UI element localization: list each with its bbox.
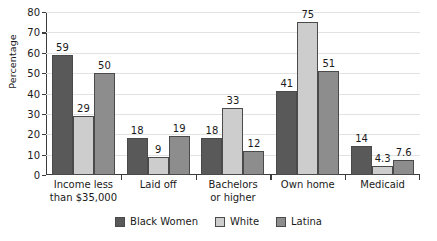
bar[interactable] [393,160,414,175]
bar-value-label: 50 [98,61,111,71]
bar-value-label: 14 [355,134,368,144]
bar[interactable] [127,138,148,175]
bar-groups: 59295018919183312417551144.37.6 [46,12,420,175]
bar-value-label: 12 [248,139,261,149]
bar-slot: 9 [148,12,169,175]
bar-slot: 19 [169,12,190,175]
bar-value-label: 29 [77,104,90,114]
y-axis-tick-mark [42,175,46,176]
bar-group: 417551 [270,12,345,175]
bar-value-label: 18 [131,126,144,136]
bar-slot: 4.3 [372,12,393,175]
legend-swatch-icon [115,217,125,227]
bar[interactable] [94,73,115,175]
x-axis-category-label: Laid off [121,179,196,204]
bar-value-label: 41 [280,79,293,89]
legend-swatch-icon [215,217,225,227]
y-axis-title: Percentage [7,22,18,102]
y-axis-tick-label: 30 [27,108,40,119]
bar-group: 183312 [196,12,271,175]
bar[interactable] [297,22,318,175]
x-axis-category-label-line: Own home [270,179,345,192]
bar[interactable] [201,138,222,175]
bar[interactable] [372,166,393,175]
bar-group-bars: 417551 [270,12,345,175]
bar[interactable] [73,116,94,175]
bar-slot: 33 [222,12,243,175]
x-axis-category-label-line: Income less [46,179,121,192]
bar[interactable] [276,91,297,175]
bar[interactable] [148,157,169,175]
x-axis-category-label-line: than $35,000 [46,192,121,205]
legend-label: White [230,216,259,227]
x-axis-category-label: Medicaid [345,179,420,204]
y-axis-tick-label: 80 [27,7,40,18]
bar[interactable] [169,136,190,175]
chart-legend: Black WomenWhiteLatina [0,216,437,227]
bar-value-label: 18 [206,126,219,136]
bar-group: 144.37.6 [345,12,420,175]
x-axis-category-label: Own home [270,179,345,204]
bar-group-bars: 183312 [196,12,271,175]
y-axis-tick-label: 10 [27,149,40,160]
x-axis-category-label-line: Laid off [121,179,196,192]
y-axis-tick-label: 60 [27,47,40,58]
bar[interactable] [318,71,339,175]
bar-group: 18919 [121,12,196,175]
bar-chart: Percentage 01020304050607080 59295018919… [0,0,437,241]
bar-slot: 41 [276,12,297,175]
bar[interactable] [351,146,372,175]
bar-slot: 18 [127,12,148,175]
bar-value-label: 7.6 [396,148,412,158]
x-axis-category-label-line: Medicaid [345,179,420,192]
legend-label: Latina [291,216,322,227]
x-axis-category-label-line: or higher [196,192,271,205]
bar-slot: 59 [52,12,73,175]
bar-slot: 14 [351,12,372,175]
y-axis-tick-label: 70 [27,27,40,38]
x-axis-category-label-line: Bachelors [196,179,271,192]
bar-group-bars: 144.37.6 [345,12,420,175]
bar-value-label: 59 [56,43,69,53]
legend-swatch-icon [276,217,286,227]
bar-slot: 50 [94,12,115,175]
y-axis-tick-label: 40 [27,88,40,99]
x-axis-category-label: Bachelorsor higher [196,179,271,204]
y-axis-tick-label: 50 [27,68,40,79]
bar-group-bars: 18919 [121,12,196,175]
legend-item[interactable]: White [215,216,259,227]
x-axis-category-labels: Income lessthan $35,000Laid offBachelors… [46,179,420,204]
bar-value-label: 75 [301,10,314,20]
bar-value-label: 33 [227,96,240,106]
bar-slot: 12 [243,12,264,175]
bar-value-label: 4.3 [375,154,391,164]
y-axis-tick-label: 0 [34,170,40,181]
legend-item[interactable]: Latina [276,216,322,227]
x-axis-category-label: Income lessthan $35,000 [46,179,121,204]
bar-value-label: 19 [173,124,186,134]
bar-group-bars: 592950 [46,12,121,175]
y-axis-tick-label: 20 [27,129,40,140]
bar-value-label: 51 [322,59,335,69]
legend-label: Black Women [130,216,198,227]
bar[interactable] [243,151,264,175]
bar-slot: 51 [318,12,339,175]
bar-group: 592950 [46,12,121,175]
bar-value-label: 9 [155,145,161,155]
legend-item[interactable]: Black Women [115,216,198,227]
bar-slot: 29 [73,12,94,175]
bar[interactable] [52,55,73,175]
bar[interactable] [222,108,243,175]
plot-area: 01020304050607080 5929501891918331241755… [46,12,420,175]
bar-slot: 7.6 [393,12,414,175]
bar-slot: 75 [297,12,318,175]
bar-slot: 18 [201,12,222,175]
